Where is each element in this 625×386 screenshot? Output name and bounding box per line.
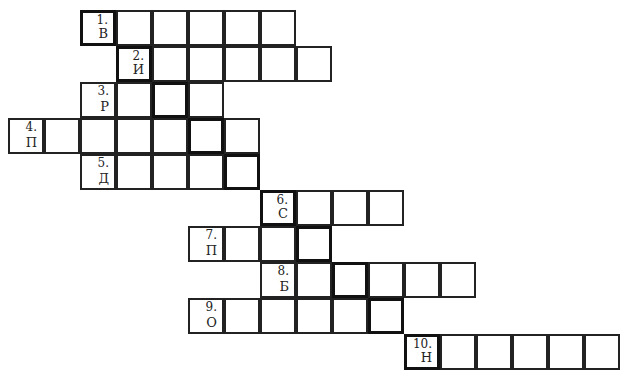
clue-start-cell[interactable]: 8.Б — [260, 262, 296, 298]
clue-first-letter: П — [26, 136, 37, 150]
clue-first-letter: Д — [98, 172, 109, 186]
answer-cell[interactable] — [260, 226, 296, 262]
answer-cell[interactable] — [152, 10, 188, 46]
clue-start-cell[interactable]: 5.Д — [80, 154, 116, 190]
answer-cell[interactable] — [296, 262, 332, 298]
clue-start-cell[interactable]: 6.С — [260, 190, 296, 226]
clue-first-letter: Б — [279, 280, 289, 294]
answer-cell[interactable] — [368, 262, 404, 298]
clue-first-letter: И — [133, 63, 144, 77]
clue-start-cell[interactable]: 9.О — [188, 298, 224, 334]
clue-first-letter: О — [206, 316, 217, 330]
clue-number: 5. — [98, 157, 109, 170]
clue-start-cell[interactable]: 7.П — [188, 226, 224, 262]
clue-start-cell[interactable]: 1.В — [80, 10, 116, 46]
clue-first-letter: Р — [100, 100, 109, 114]
keyword-cell[interactable] — [224, 154, 260, 190]
keyword-cell[interactable] — [332, 262, 368, 298]
answer-cell[interactable] — [152, 154, 188, 190]
answer-cell[interactable] — [440, 334, 476, 370]
answer-cell[interactable] — [116, 118, 152, 154]
answer-cell[interactable] — [224, 298, 260, 334]
answer-cell[interactable] — [260, 46, 296, 82]
clue-start-cell[interactable]: 2.И — [116, 46, 152, 82]
answer-cell[interactable] — [548, 334, 584, 370]
answer-cell[interactable] — [44, 118, 80, 154]
answer-cell[interactable] — [476, 334, 512, 370]
answer-cell[interactable] — [296, 298, 332, 334]
answer-cell[interactable] — [260, 10, 296, 46]
clue-first-letter: Н — [421, 351, 432, 365]
keyword-cell[interactable] — [188, 118, 224, 154]
clue-number: 9. — [206, 301, 217, 314]
answer-cell[interactable] — [332, 190, 368, 226]
answer-cell[interactable] — [332, 298, 368, 334]
answer-cell[interactable] — [188, 154, 224, 190]
answer-cell[interactable] — [188, 46, 224, 82]
clue-first-letter: П — [206, 244, 217, 258]
keyword-cell[interactable] — [368, 298, 404, 334]
keyword-cell[interactable] — [152, 82, 188, 118]
answer-cell[interactable] — [368, 190, 404, 226]
clue-number: 3. — [98, 85, 109, 98]
answer-cell[interactable] — [152, 46, 188, 82]
answer-cell[interactable] — [224, 226, 260, 262]
answer-cell[interactable] — [188, 10, 224, 46]
clue-number: 4. — [26, 121, 37, 134]
answer-cell[interactable] — [296, 190, 332, 226]
answer-cell[interactable] — [440, 262, 476, 298]
answer-cell[interactable] — [260, 298, 296, 334]
clue-first-letter: С — [278, 207, 288, 221]
answer-cell[interactable] — [584, 334, 620, 370]
answer-cell[interactable] — [152, 118, 188, 154]
answer-cell[interactable] — [116, 10, 152, 46]
crossword-grid: 1.В2.И3.Р4.П5.Д6.С7.П8.Б9.О10.Н — [0, 0, 625, 386]
answer-cell[interactable] — [80, 118, 116, 154]
answer-cell[interactable] — [224, 46, 260, 82]
keyword-cell[interactable] — [296, 226, 332, 262]
answer-cell[interactable] — [296, 46, 332, 82]
clue-start-cell[interactable]: 10.Н — [404, 334, 440, 370]
answer-cell[interactable] — [224, 10, 260, 46]
clue-first-letter: В — [98, 27, 108, 41]
answer-cell[interactable] — [512, 334, 548, 370]
clue-number: 7. — [206, 229, 217, 242]
clue-number: 8. — [278, 265, 289, 278]
clue-start-cell[interactable]: 3.Р — [80, 82, 116, 118]
answer-cell[interactable] — [224, 118, 260, 154]
clue-start-cell[interactable]: 4.П — [8, 118, 44, 154]
answer-cell[interactable] — [188, 82, 224, 118]
answer-cell[interactable] — [116, 82, 152, 118]
answer-cell[interactable] — [116, 154, 152, 190]
answer-cell[interactable] — [404, 262, 440, 298]
